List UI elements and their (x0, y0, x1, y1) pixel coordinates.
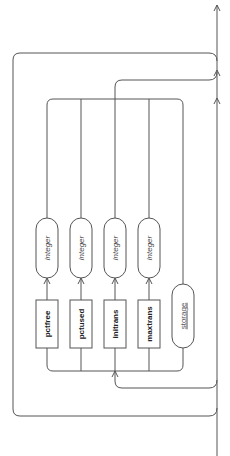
exit-path (115, 72, 217, 99)
integer-label-3: integer (111, 236, 120, 260)
entry-path (115, 371, 217, 388)
keyword-pctused: pctused (77, 309, 86, 340)
keyword-initrans: initrans (111, 310, 120, 339)
integer-label-4: integer (145, 236, 154, 260)
keyword-maxtrans: maxtrans (145, 306, 154, 342)
integer-label-2: integer (77, 236, 86, 260)
integer-label-1: integer (43, 236, 52, 260)
storage-reference-link[interactable]: storage (179, 303, 188, 330)
railroad-diagram (0, 0, 230, 456)
keyword-pctfree: pctfree (43, 311, 52, 338)
